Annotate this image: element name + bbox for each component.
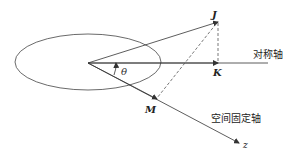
label-z: z <box>242 140 248 150</box>
theta-arc <box>114 63 116 75</box>
j-vector <box>88 22 218 63</box>
label-symmetry-axis: 对称轴 <box>253 48 283 60</box>
ellipse <box>15 34 161 90</box>
label-j: J <box>210 9 218 20</box>
diagram-canvas: J K M z θ 对称轴 空间固定轴 <box>0 0 297 158</box>
dashed-j-to-m <box>157 24 216 98</box>
label-m: M <box>144 104 157 115</box>
label-space-fixed-axis: 空间固定轴 <box>211 112 261 124</box>
label-k: K <box>212 67 223 78</box>
label-theta: θ <box>121 66 127 77</box>
